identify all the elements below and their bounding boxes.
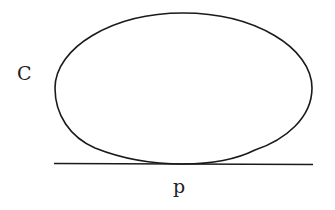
curve-label: C — [17, 62, 32, 84]
curve-c — [55, 13, 312, 164]
point-label: p — [173, 175, 185, 197]
tangent-line — [54, 164, 313, 165]
diagram-canvas: C p — [0, 0, 335, 210]
